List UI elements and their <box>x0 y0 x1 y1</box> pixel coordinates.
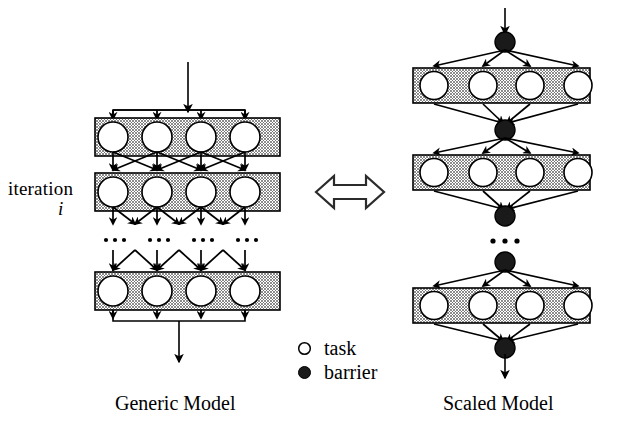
task-node <box>142 122 172 152</box>
task-node <box>230 122 260 152</box>
task-node <box>142 276 172 306</box>
legend-label-task: task <box>324 337 356 360</box>
task-node <box>186 276 216 306</box>
task-node <box>230 276 260 306</box>
task-node <box>516 292 544 320</box>
barrier-node <box>495 206 515 226</box>
generic-band-3 <box>95 272 280 310</box>
task-node <box>469 292 497 320</box>
scaled-model-caption: Scaled Model <box>443 392 554 415</box>
legend: task barrier <box>296 336 426 384</box>
legend-item-barrier: barrier <box>296 360 426 384</box>
figure-root: iteration i Generic Model Scaled Model t… <box>0 0 618 437</box>
legend-label-barrier: barrier <box>324 361 377 384</box>
scaled-band-1 <box>413 68 592 103</box>
generic-band-2 <box>95 173 280 211</box>
iteration-label: iteration <box>8 178 73 200</box>
task-node <box>516 159 544 187</box>
task-node <box>420 159 448 187</box>
task-node <box>186 177 216 207</box>
task-node <box>469 72 497 100</box>
scaled-model-group <box>413 8 592 378</box>
task-node <box>142 177 172 207</box>
task-node <box>230 177 260 207</box>
barrier-node <box>495 32 515 52</box>
task-node <box>186 122 216 152</box>
task-node <box>469 159 497 187</box>
generic-output-bus <box>113 310 245 321</box>
task-node <box>98 177 128 207</box>
equivalence-arrow-icon <box>316 176 384 208</box>
task-node <box>564 292 592 320</box>
scaled-ellipsis-row <box>490 238 519 243</box>
task-circle-icon <box>296 341 312 356</box>
barrier-node <box>495 252 515 272</box>
barrier-circle-icon <box>296 365 312 380</box>
iteration-index-label: i <box>58 198 63 220</box>
scaled-band-2 <box>413 155 592 190</box>
task-node <box>516 72 544 100</box>
generic-model-caption: Generic Model <box>115 392 236 415</box>
barrier-node <box>495 120 515 140</box>
task-node <box>98 122 128 152</box>
task-node <box>98 276 128 306</box>
generic-band-1 <box>95 118 280 156</box>
generic-edges-dots-3 <box>113 250 245 270</box>
task-node <box>420 72 448 100</box>
task-node <box>564 72 592 100</box>
scaled-band-3 <box>413 288 592 323</box>
legend-item-task: task <box>296 336 426 360</box>
task-node <box>420 292 448 320</box>
task-node <box>564 159 592 187</box>
generic-ellipsis-row <box>104 238 258 242</box>
generic-model-group <box>95 62 280 362</box>
